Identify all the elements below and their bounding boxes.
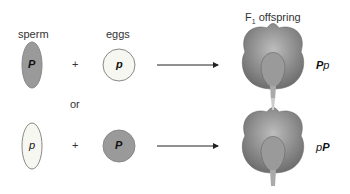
cross-diagram <box>0 0 350 194</box>
offspring-genotype-1: Pp <box>316 59 329 71</box>
or-connector: or <box>70 98 80 110</box>
plus-sign-2: + <box>72 139 78 151</box>
egg-allele-2: P <box>115 139 122 151</box>
sperm-allele-1: P <box>28 58 35 70</box>
flower-icon <box>242 24 303 101</box>
flower-icon <box>242 98 303 186</box>
offspring-genotype-2: pP <box>316 141 329 153</box>
egg-allele-1: p <box>116 58 123 70</box>
sperm-allele-2: p <box>29 139 35 151</box>
plus-sign-1: + <box>72 58 78 70</box>
